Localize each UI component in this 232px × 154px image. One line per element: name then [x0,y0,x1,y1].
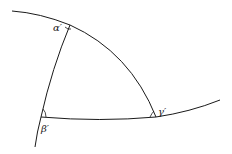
label-alpha: α′ [53,22,63,33]
spherical-triangle-diagram: α′ β′ γ′ [0,0,232,154]
label-beta: β′ [40,123,50,134]
angle-mark-gamma [150,111,154,117]
arc-beta-gamma [41,100,220,120]
label-gamma: γ′ [158,106,167,117]
arc-alpha-gamma [12,11,156,117]
angle-mark-alpha [65,27,71,29]
angle-mark-beta [43,109,46,117]
